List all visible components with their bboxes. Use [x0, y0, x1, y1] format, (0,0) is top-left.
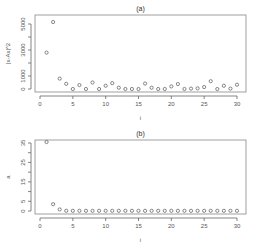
- data-point: [170, 209, 173, 212]
- x-tick-label: 0: [38, 101, 42, 107]
- data-point: [203, 85, 206, 88]
- data-point: [196, 87, 199, 90]
- data-point: [130, 87, 133, 90]
- data-point: [163, 209, 166, 212]
- data-point: [104, 84, 107, 87]
- data-point: [124, 209, 127, 212]
- data-point: [52, 20, 55, 23]
- panel-a: (a)051015202530i0100030005000|x-Ax|^2: [5, 5, 246, 121]
- data-point: [235, 83, 238, 86]
- panel-b: (b)051015202530i05152535a: [5, 130, 246, 243]
- data-point: [143, 209, 146, 212]
- x-tick-label: 10: [102, 223, 109, 229]
- data-point: [130, 209, 133, 212]
- data-point: [71, 209, 74, 212]
- data-point: [170, 85, 173, 88]
- y-axis: 05152535: [20, 139, 31, 213]
- data-point: [209, 209, 212, 212]
- data-points: [45, 140, 239, 212]
- x-axis-label: i: [140, 237, 141, 243]
- data-point: [91, 209, 94, 212]
- y-tick-label: 0: [20, 209, 26, 213]
- y-axis-label: |x-Ax|^2: [5, 42, 11, 64]
- data-point: [222, 84, 225, 87]
- data-point: [137, 87, 140, 90]
- chart-title: (b): [136, 130, 145, 138]
- data-point: [176, 209, 179, 212]
- data-point: [111, 209, 114, 212]
- data-point: [65, 82, 68, 85]
- plot-frame: [35, 140, 246, 214]
- data-point: [117, 209, 120, 212]
- x-tick-label: 15: [135, 223, 142, 229]
- data-point: [216, 209, 219, 212]
- x-axis-label: i: [140, 115, 141, 121]
- data-point: [58, 77, 61, 80]
- data-point: [137, 209, 140, 212]
- data-point: [229, 87, 232, 90]
- data-point: [52, 203, 55, 206]
- y-tick-label: 5000: [20, 17, 26, 31]
- chart-title: (a): [136, 5, 145, 13]
- data-point: [235, 209, 238, 212]
- data-point: [203, 209, 206, 212]
- data-point: [104, 209, 107, 212]
- data-point: [78, 84, 81, 87]
- x-tick-label: 25: [201, 101, 208, 107]
- x-tick-label: 15: [135, 101, 142, 107]
- x-tick-label: 25: [201, 223, 208, 229]
- data-point: [176, 82, 179, 85]
- y-tick-label: 0: [20, 87, 26, 91]
- y-axis-label: a: [5, 175, 11, 179]
- data-point: [124, 87, 127, 90]
- data-point: [78, 209, 81, 212]
- data-point: [183, 87, 186, 90]
- data-point: [183, 209, 186, 212]
- data-point: [150, 209, 153, 212]
- data-point: [84, 209, 87, 212]
- data-points: [45, 20, 239, 90]
- y-tick-label: 15: [20, 178, 26, 185]
- data-point: [91, 81, 94, 84]
- x-tick-label: 5: [71, 101, 75, 107]
- x-tick-label: 5: [71, 223, 75, 229]
- y-tick-label: 5: [20, 199, 26, 203]
- x-axis: 051015202530: [38, 218, 241, 229]
- data-point: [150, 86, 153, 89]
- data-point: [222, 209, 225, 212]
- x-tick-label: 10: [102, 101, 109, 107]
- data-point: [71, 87, 74, 90]
- data-point: [157, 87, 160, 90]
- data-point: [98, 87, 101, 90]
- data-point: [117, 86, 120, 89]
- y-tick-label: 35: [20, 139, 26, 146]
- y-axis: 0100030005000: [20, 17, 31, 91]
- data-point: [111, 82, 114, 85]
- y-tick-label: 3000: [20, 43, 26, 57]
- x-tick-label: 30: [234, 223, 241, 229]
- chart-figure: (a)051015202530i0100030005000|x-Ax|^2 (b…: [0, 0, 259, 249]
- data-point: [143, 82, 146, 85]
- x-tick-label: 20: [168, 101, 175, 107]
- x-tick-label: 0: [38, 223, 42, 229]
- data-point: [209, 80, 212, 83]
- data-point: [157, 209, 160, 212]
- y-tick-label: 25: [20, 158, 26, 165]
- data-point: [163, 87, 166, 90]
- data-point: [45, 51, 48, 54]
- y-tick-label: 1000: [20, 69, 26, 83]
- data-point: [229, 209, 232, 212]
- data-point: [216, 87, 219, 90]
- data-point: [84, 87, 87, 90]
- data-point: [189, 209, 192, 212]
- data-point: [189, 87, 192, 90]
- data-point: [45, 140, 48, 143]
- data-point: [196, 209, 199, 212]
- data-point: [98, 209, 101, 212]
- plot-frame: [35, 15, 246, 92]
- x-tick-label: 20: [168, 223, 175, 229]
- x-tick-label: 30: [234, 101, 241, 107]
- data-point: [65, 209, 68, 212]
- x-axis: 051015202530: [38, 96, 241, 107]
- data-point: [58, 208, 61, 211]
